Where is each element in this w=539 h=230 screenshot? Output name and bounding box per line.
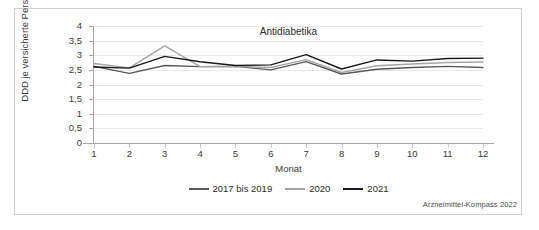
legend-line-icon: [343, 188, 363, 190]
x-tick-label: 7: [294, 148, 318, 159]
x-tick-label: 9: [365, 148, 389, 159]
y-tick-mark: [89, 55, 93, 56]
y-tick-mark: [89, 99, 93, 100]
legend-label: 2017 bis 2019: [213, 183, 273, 194]
x-tick-label: 8: [330, 148, 354, 159]
y-tick-mark: [89, 128, 93, 129]
y-tick-label: 2,5: [52, 65, 82, 75]
legend-line-icon: [189, 188, 209, 190]
y-tick-label: 4: [52, 21, 82, 31]
y-axis-title: DDD je versicherte Person: [19, 0, 30, 116]
y-tick-mark: [89, 70, 93, 71]
legend-item[interactable]: 2017 bis 2019: [189, 183, 273, 194]
figure-container: Antidiabetika DDD je versicherte Person …: [0, 0, 539, 230]
y-tick-mark: [89, 26, 93, 27]
x-axis-line: [83, 143, 494, 144]
x-tick-label: 12: [471, 148, 495, 159]
y-tick-label: 3: [52, 50, 82, 60]
line-chart: Antidiabetika DDD je versicherte Person …: [0, 0, 539, 230]
series-lines: [94, 26, 483, 143]
plot-area: [94, 26, 483, 143]
x-tick-label: 2: [117, 148, 141, 159]
y-tick-mark: [89, 41, 93, 42]
legend-label: 2020: [309, 183, 330, 194]
x-tick-label: 4: [188, 148, 212, 159]
legend-item[interactable]: 2021: [343, 183, 388, 194]
y-tick-label: 0,5: [52, 123, 82, 133]
y-tick-mark: [89, 85, 93, 86]
x-tick-label: 3: [153, 148, 177, 159]
x-tick-label: 5: [223, 148, 247, 159]
y-tick-label: 3,5: [52, 36, 82, 46]
source-note: Arzneimittel-Kompass 2022: [423, 200, 517, 209]
y-tick-label: 2: [52, 80, 82, 90]
chart-legend: 2017 bis 201920202021: [94, 183, 483, 194]
y-tick-label: 1: [52, 109, 82, 119]
x-tick-label: 11: [436, 148, 460, 159]
y-tick-mark: [89, 114, 93, 115]
x-tick-label: 6: [259, 148, 283, 159]
legend-label: 2021: [367, 183, 388, 194]
x-axis-title: Monat: [94, 163, 483, 174]
y-tick-label: 1,5: [52, 94, 82, 104]
y-tick-mark: [89, 143, 93, 144]
x-tick-label: 1: [82, 148, 106, 159]
x-tick-label: 10: [400, 148, 424, 159]
y-tick-label: 0: [52, 138, 82, 148]
legend-item[interactable]: 2020: [285, 183, 330, 194]
legend-line-icon: [285, 188, 305, 190]
